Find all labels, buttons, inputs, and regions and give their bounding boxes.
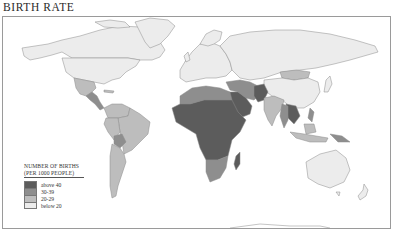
region-tasmania <box>336 192 340 196</box>
region-usa <box>62 58 140 84</box>
region-burma-thailand <box>280 104 288 128</box>
legend-label: 30-39 <box>41 189 54 195</box>
legend-label: 20-29 <box>41 196 54 202</box>
legend-swatch <box>24 181 37 188</box>
region-antarctica <box>230 224 330 228</box>
legend: NUMBER OF BIRTHS (PER 1000 PEOPLE) above… <box>24 163 84 209</box>
legend-heading-1: NUMBER OF BIRTHS <box>24 163 84 170</box>
legend-label: above 40 <box>41 182 61 188</box>
legend-label: below 20 <box>41 203 62 209</box>
region-sub-saharan-africa <box>172 100 246 160</box>
legend-item-30-39: 30-39 <box>24 188 84 195</box>
legend-heading-2: (PER 1000 PEOPLE) <box>24 170 84 177</box>
region-png <box>330 134 350 142</box>
legend-divider <box>24 177 84 178</box>
region-uk <box>184 52 190 62</box>
region-new-zealand <box>358 184 368 200</box>
region-scandinavia <box>200 30 222 46</box>
region-borneo <box>304 124 316 134</box>
region-arctic-islands <box>95 20 130 28</box>
legend-item-20-29: 20-29 <box>24 195 84 202</box>
region-central-america <box>86 92 104 110</box>
region-madagascar <box>234 152 240 170</box>
region-venezuela-colombia <box>104 104 130 118</box>
legend-swatch <box>24 195 37 202</box>
region-australia <box>306 150 350 188</box>
legend-item-above-40: above 40 <box>24 181 84 188</box>
legend-swatch <box>24 202 37 209</box>
region-philippines <box>308 108 314 122</box>
legend-swatch <box>24 188 37 195</box>
region-southern-africa <box>206 156 228 182</box>
region-caribbean <box>104 90 114 93</box>
region-japan <box>324 76 332 92</box>
legend-item-below-20: below 20 <box>24 202 84 209</box>
